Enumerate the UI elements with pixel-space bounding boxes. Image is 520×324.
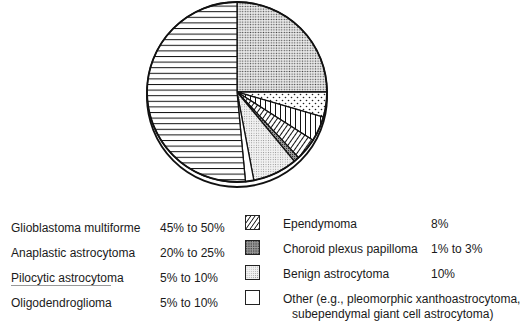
swatch-white-icon — [245, 290, 260, 305]
legend-label: Choroid plexus papilloma — [283, 240, 418, 258]
legend-value: 20% to 25% — [160, 244, 225, 262]
legend-left: Glioblastoma multiforme 45% to 50% Anapl… — [11, 219, 251, 319]
legend-value: 8% — [431, 215, 448, 233]
legend-label: Ependymoma — [283, 215, 357, 233]
swatch-light-stipple-icon — [245, 265, 260, 280]
legend-item-ependymoma: Ependymoma 8% — [245, 215, 517, 240]
legend-divider — [11, 285, 111, 286]
legend-label-line2: subependymal giant cell astrocytoma) — [292, 305, 493, 323]
legend-item-choroid-plexus-papilloma: Choroid plexus papilloma 1% to 3% — [245, 240, 517, 265]
swatch-diagonal-lines-icon — [245, 215, 260, 230]
legend-value: 5% to 10% — [160, 269, 218, 287]
legend-item-pilocytic-astrocytoma: Pilocytic astrocytoma 5% to 10% — [11, 269, 251, 294]
legend-item-oligodendroglioma: Oligodendroglioma 5% to 10% — [11, 294, 251, 319]
legend-label: Benign astrocytoma — [283, 265, 389, 283]
legend-label: Glioblastoma multiforme — [11, 219, 140, 237]
legend-item-anaplastic-astrocytoma: Anaplastic astrocytoma 20% to 25% — [11, 244, 251, 269]
pie-slice-glioblastoma-multiforme — [147, 2, 245, 182]
legend-value: 45% to 50% — [160, 219, 225, 237]
legend-item-benign-astrocytoma: Benign astrocytoma 10% — [245, 265, 517, 290]
pie-slices — [147, 2, 327, 182]
legend-value: 10% — [431, 265, 455, 283]
legend-item-other: Other (e.g., pleomorphic xanthoastrocyto… — [245, 290, 517, 324]
pie-chart — [140, 0, 340, 200]
swatch-dark-stipple-icon — [245, 240, 260, 255]
pie-chart-svg — [140, 0, 340, 200]
pie-slice-anaplastic-astrocytoma — [237, 2, 327, 92]
legend-label: Oligodendroglioma — [11, 294, 112, 312]
legend-right: Ependymoma 8% Choroid plexus papilloma 1… — [245, 215, 517, 324]
legend-item-glioblastoma: Glioblastoma multiforme 45% to 50% — [11, 219, 251, 244]
legend-value: 5% to 10% — [160, 294, 218, 312]
legend-label: Anaplastic astrocytoma — [11, 244, 135, 262]
legend-value: 1% to 3% — [431, 240, 482, 258]
